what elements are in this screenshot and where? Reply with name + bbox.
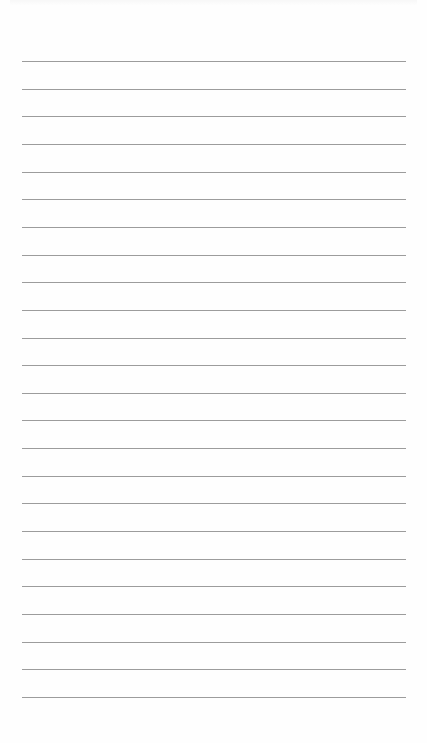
ruled-line bbox=[22, 338, 406, 339]
ruled-line bbox=[22, 310, 406, 311]
ruled-line bbox=[22, 697, 406, 698]
ruled-line bbox=[22, 476, 406, 477]
ruled-line bbox=[22, 448, 406, 449]
ruled-line bbox=[22, 642, 406, 643]
lined-paper-page bbox=[0, 0, 427, 743]
ruled-line bbox=[22, 255, 406, 256]
ruled-line bbox=[22, 116, 406, 117]
ruled-line bbox=[22, 89, 406, 90]
ruled-line bbox=[22, 172, 406, 173]
ruled-line bbox=[22, 365, 406, 366]
ruled-line bbox=[22, 282, 406, 283]
ruled-line bbox=[22, 227, 406, 228]
ruled-line bbox=[22, 503, 406, 504]
ruled-line bbox=[22, 144, 406, 145]
top-edge-bleed-through bbox=[10, 0, 417, 6]
ruled-line bbox=[22, 614, 406, 615]
ruled-line bbox=[22, 393, 406, 394]
ruled-line bbox=[22, 586, 406, 587]
ruled-line bbox=[22, 559, 406, 560]
ruled-line bbox=[22, 669, 406, 670]
ruled-line bbox=[22, 61, 406, 62]
ruled-line bbox=[22, 420, 406, 421]
ruled-line bbox=[22, 531, 406, 532]
ruled-line bbox=[22, 199, 406, 200]
